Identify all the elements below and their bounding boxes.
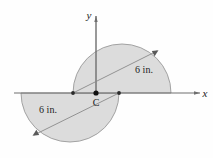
x-axis-label: x: [202, 87, 208, 99]
figure-container: y x C 6 in. 6 in.: [0, 0, 213, 158]
y-axis-label: y: [86, 9, 92, 21]
upper-radius-label: 6 in.: [135, 64, 153, 75]
right-junction-point: [117, 91, 121, 95]
centroid-label: C: [93, 97, 100, 108]
centroid-point-marker: [93, 90, 98, 95]
lower-radius-label: 6 in.: [39, 104, 57, 115]
mechanics-figure: y x C 6 in. 6 in.: [0, 0, 213, 158]
left-junction-point: [71, 91, 75, 95]
